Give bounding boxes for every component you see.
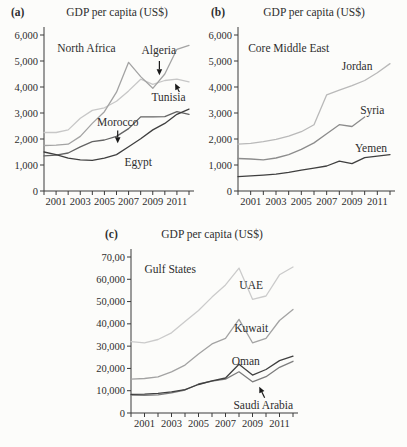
svg-text:2005: 2005 [94,196,115,207]
svg-text:2003: 2003 [161,418,182,429]
svg-text:2005: 2005 [188,418,209,429]
svg-text:40,000: 40,000 [96,318,125,329]
svg-text:2011: 2011 [367,196,388,207]
svg-text:1,000: 1,000 [14,160,38,171]
svg-text:5,000: 5,000 [14,56,38,67]
svg-text:Morocco: Morocco [97,116,139,128]
svg-text:3,000: 3,000 [208,108,232,119]
svg-text:2009: 2009 [242,418,263,429]
svg-text:Tunisia: Tunisia [151,91,185,103]
svg-text:2003: 2003 [266,196,287,207]
svg-text:Algeria: Algeria [142,44,176,57]
svg-text:2005: 2005 [291,196,312,207]
svg-text:0: 0 [120,408,125,419]
svg-text:2007: 2007 [316,196,337,207]
svg-text:2011: 2011 [167,196,188,207]
svg-text:30,000: 30,000 [96,341,125,352]
svg-text:2007: 2007 [215,418,236,429]
panel-c-gulf-states: (c) GDP per capita (US$) 010,00020,00030… [62,227,382,439]
svg-text:2001: 2001 [46,196,67,207]
svg-text:Egypt: Egypt [125,156,153,169]
svg-text:2009: 2009 [342,196,363,207]
svg-text:2,000: 2,000 [208,134,232,145]
svg-text:2001: 2001 [240,196,261,207]
chart-gulf-states: 010,00020,00030,00040,00050,00060,00070,… [62,243,382,439]
svg-text:UAE: UAE [239,279,263,291]
svg-text:2001: 2001 [134,418,155,429]
svg-text:3,000: 3,000 [14,108,38,119]
panel-a-title: GDP per capita (US$) [7,6,227,18]
svg-text:2003: 2003 [70,196,91,207]
chart-core-middle-east: 01,0002,0003,0004,0005,0006,000200120032… [206,21,406,217]
svg-text:4,000: 4,000 [14,82,38,93]
panel-a-north-africa: (a) GDP per capita (US$) 01,0002,0003,00… [2,5,206,217]
svg-text:2011: 2011 [269,418,290,429]
svg-text:Yemen: Yemen [355,142,387,154]
svg-text:1,000: 1,000 [208,160,232,171]
chart-north-africa: 01,0002,0003,0004,0005,0006,000200120032… [2,21,206,217]
panel-c-title: GDP per capita (US$) [102,228,322,240]
svg-text:2007: 2007 [118,196,139,207]
svg-text:Core Middle East: Core Middle East [248,42,330,54]
svg-text:0: 0 [33,186,38,197]
svg-text:Oman: Oman [232,355,260,367]
svg-text:5,000: 5,000 [208,56,232,67]
svg-text:0: 0 [227,186,232,197]
panel-a-header: (a) GDP per capita (US$) [2,5,206,21]
panel-b-core-middle-east: (b) GDP per capita (US$) 01,0002,0003,00… [206,5,406,217]
svg-text:60,000: 60,000 [96,274,125,285]
svg-text:Jordan: Jordan [342,60,373,72]
svg-text:2009: 2009 [142,196,163,207]
svg-text:20,000: 20,000 [96,363,125,374]
panel-b-header: (b) GDP per capita (US$) [206,5,406,21]
svg-text:6,000: 6,000 [208,30,232,41]
svg-text:Saudi Arabia: Saudi Arabia [233,399,293,411]
svg-text:2,000: 2,000 [14,134,38,145]
svg-text:50,000: 50,000 [96,296,125,307]
svg-text:Kuwait: Kuwait [234,322,269,334]
svg-text:70,00: 70,00 [101,252,125,263]
figure: (a) GDP per capita (US$) 01,0002,0003,00… [0,0,407,447]
svg-text:Gulf States: Gulf States [145,263,197,275]
svg-text:10,000: 10,000 [96,385,125,396]
panel-b-title: GDP per capita (US$) [204,6,407,18]
svg-text:4,000: 4,000 [208,82,232,93]
svg-text:6,000: 6,000 [14,30,38,41]
svg-text:North Africa: North Africa [57,42,115,54]
panel-c-header: (c) GDP per capita (US$) [62,227,382,243]
svg-text:Syria: Syria [360,104,384,117]
